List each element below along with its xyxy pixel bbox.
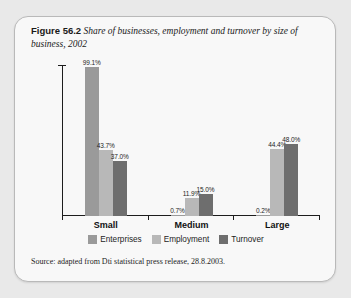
- legend-swatch-enterprises: [88, 235, 97, 244]
- bar-slot: 48.0%: [284, 59, 298, 216]
- x-axis-tick: [62, 216, 63, 220]
- bar-slot: 37.0%: [113, 59, 127, 216]
- bar-turnover-medium[interactable]: [199, 194, 213, 217]
- figure-card: Figure 56.2 Share of businesses, employm…: [14, 16, 336, 282]
- legend-label: Enterprises: [100, 235, 141, 244]
- bar-group-bars: 0.7%11.9%15.0%: [171, 59, 213, 216]
- legend-label: Turnover: [231, 235, 263, 244]
- bar-group: 99.1%43.7%37.0%: [85, 59, 127, 216]
- bar-value-label: 0.2%: [256, 207, 270, 214]
- figure-source: Source: adapted from Dti statistical pre…: [31, 257, 323, 266]
- figure-label: Figure 56.2: [31, 25, 81, 36]
- bar-employment-medium[interactable]: [185, 198, 199, 216]
- bar-turnover-large[interactable]: [284, 144, 298, 216]
- category-label-large: Large: [237, 220, 317, 230]
- legend-label: Employment: [164, 235, 210, 244]
- bar-chart-plot: 99.1%43.7%37.0%0.7%11.9%15.0%0.2%44.4%48…: [31, 59, 323, 231]
- bar-slot: 15.0%: [199, 59, 213, 216]
- category-label-small: Small: [66, 220, 146, 230]
- legend-swatch-turnover: [219, 235, 228, 244]
- chart-legend: EnterprisesEmploymentTurnover: [15, 235, 336, 244]
- category-label-medium: Medium: [152, 220, 232, 230]
- bar-value-label: 0.7%: [170, 207, 184, 214]
- bar-slot: 0.2%: [256, 59, 270, 216]
- x-axis-tick: [233, 216, 234, 220]
- bar-value-label: 37.0%: [111, 153, 129, 160]
- x-axis-tick: [319, 216, 320, 220]
- bar-employment-small[interactable]: [99, 150, 113, 216]
- bar-group: 0.7%11.9%15.0%: [171, 59, 213, 216]
- bar-group: 0.2%44.4%48.0%: [256, 59, 298, 216]
- bar-turnover-small[interactable]: [113, 161, 127, 217]
- bar-value-label: 48.0%: [282, 136, 300, 143]
- bar-value-label: 15.0%: [197, 186, 215, 193]
- legend-item-turnover[interactable]: Turnover: [219, 235, 263, 244]
- bar-group-bars: 0.2%44.4%48.0%: [256, 59, 298, 216]
- bar-employment-large[interactable]: [270, 149, 284, 216]
- bar-enterprises-large[interactable]: [256, 215, 270, 216]
- legend-item-employment[interactable]: Employment: [152, 235, 210, 244]
- legend-item-enterprises[interactable]: Enterprises: [88, 235, 141, 244]
- legend-swatch-employment: [152, 235, 161, 244]
- bar-slot: 99.1%: [85, 59, 99, 216]
- x-axis-tick: [148, 216, 149, 220]
- bar-slot: 43.7%: [99, 59, 113, 216]
- bar-groups: 99.1%43.7%37.0%0.7%11.9%15.0%0.2%44.4%48…: [63, 59, 320, 216]
- bar-group-bars: 99.1%43.7%37.0%: [85, 59, 127, 216]
- figure-caption: Figure 56.2 Share of businesses, employm…: [31, 25, 321, 50]
- bar-enterprises-medium[interactable]: [171, 215, 185, 216]
